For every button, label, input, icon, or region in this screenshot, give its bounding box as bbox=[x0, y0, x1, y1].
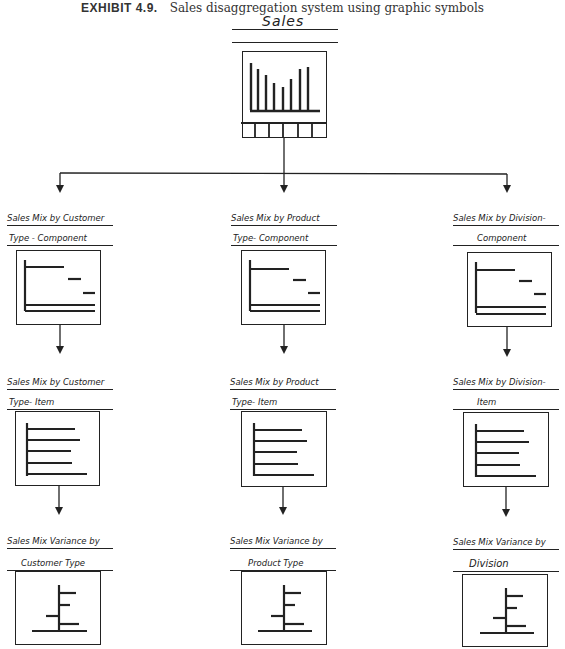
symbol-product-variance bbox=[241, 571, 327, 645]
arrowhead bbox=[280, 346, 288, 354]
exhibit-number: EXHIBIT 4.9. bbox=[81, 1, 158, 15]
arrowhead bbox=[280, 185, 288, 193]
arrowhead bbox=[502, 509, 510, 517]
arrowhead bbox=[503, 349, 511, 357]
variance-bar-chart-icon bbox=[461, 573, 547, 646]
symbol-customer-variance bbox=[15, 571, 101, 645]
symbol-product-component bbox=[241, 250, 326, 325]
symbol-division-component bbox=[467, 252, 552, 327]
vertical-bar-chart-icon bbox=[241, 50, 326, 137]
symbol-customer-item bbox=[15, 411, 100, 486]
waterfall-bar-icon bbox=[466, 251, 551, 326]
symbol-division-variance bbox=[462, 574, 548, 647]
horizontal-bar-chart-icon bbox=[240, 410, 326, 486]
horizontal-bar-chart-icon bbox=[462, 411, 548, 486]
root-label: Sales bbox=[262, 13, 304, 29]
exhibit-title: Sales disaggregation system using graphi… bbox=[170, 1, 484, 15]
waterfall-bar-icon bbox=[15, 249, 100, 324]
symbol-customer-component bbox=[16, 250, 101, 325]
root-label-underline-2 bbox=[232, 42, 338, 43]
horizontal-bar-chart-icon bbox=[14, 410, 99, 485]
waterfall-bar-icon bbox=[240, 249, 325, 324]
symbol-product-item bbox=[241, 411, 327, 487]
arrowhead bbox=[56, 346, 64, 354]
root-sales-chart-symbol bbox=[242, 51, 327, 138]
arrowhead bbox=[55, 507, 63, 515]
arrowhead bbox=[56, 185, 64, 193]
root-label-underline-1 bbox=[232, 29, 338, 30]
variance-bar-chart-icon bbox=[14, 570, 100, 644]
arrowhead bbox=[279, 507, 287, 515]
variance-bar-chart-icon bbox=[240, 570, 326, 644]
symbol-division-item bbox=[463, 412, 549, 487]
arrowhead bbox=[503, 185, 511, 193]
